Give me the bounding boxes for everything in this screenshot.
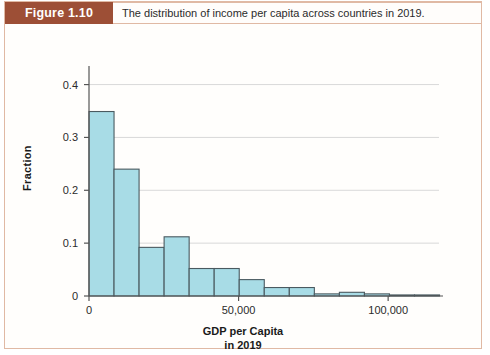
histogram-bar: [89, 112, 114, 296]
x-tick-label: 50,000: [222, 304, 256, 316]
y-tick-label: 0.3: [63, 131, 78, 143]
histogram-bar: [239, 280, 264, 296]
figure-header: Figure 1.10 The distribution of income p…: [5, 2, 481, 24]
histogram-bar: [114, 169, 139, 296]
histogram-bar: [164, 237, 189, 296]
figure-number-badge: Figure 1.10: [5, 2, 113, 24]
histogram-bar: [139, 247, 164, 296]
x-tick-label: 0: [86, 304, 92, 316]
histogram-bar: [189, 269, 214, 296]
y-axis-title: Fraction: [21, 128, 33, 208]
y-tick-label: 0.4: [63, 79, 78, 91]
y-tick-label: 0.1: [63, 237, 78, 249]
figure-caption: The distribution of income per capita ac…: [113, 2, 481, 24]
chart-plot-area: Fraction GDP per Capita in 2019 00.10.20…: [5, 24, 481, 350]
x-axis-title-line1: GDP per Capita: [5, 324, 481, 338]
y-tick-label: 0: [72, 290, 78, 302]
x-axis-title: GDP per Capita in 2019: [5, 324, 481, 352]
histogram-bar: [264, 288, 289, 296]
histogram-bar: [289, 288, 314, 296]
figure-panel: Figure 1.10 The distribution of income p…: [4, 1, 482, 349]
x-tick-label: 100,000: [368, 304, 408, 316]
x-axis-title-line2: in 2019: [5, 338, 481, 352]
y-tick-label: 0.2: [63, 184, 78, 196]
histogram-bar: [214, 269, 239, 296]
